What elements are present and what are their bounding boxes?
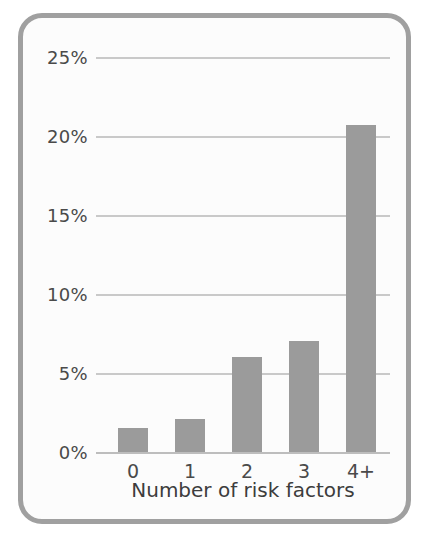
gridline-25: 25% (96, 57, 390, 59)
bar-0 (118, 428, 148, 452)
ytick-label-15: 15% (47, 205, 88, 226)
ytick-label-5: 5% (59, 363, 88, 384)
ytick-label-25: 25% (47, 47, 88, 68)
bar-2 (232, 357, 262, 452)
axis-baseline-0: 0% (96, 452, 390, 454)
ytick-label-10: 10% (47, 284, 88, 305)
plot-area: 25% 20% 15% 10% 5% 0% 0 1 2 3 4+ (96, 57, 390, 452)
ytick-label-0: 0% (59, 442, 88, 463)
ytick-label-20: 20% (47, 126, 88, 147)
bar-4plus (346, 125, 376, 452)
bar-3 (289, 341, 319, 452)
x-axis-title: Number of risk factors (96, 478, 390, 502)
chart-figure: 25% 20% 15% 10% 5% 0% 0 1 2 3 4+ Number … (0, 0, 435, 555)
bar-1 (175, 419, 205, 452)
